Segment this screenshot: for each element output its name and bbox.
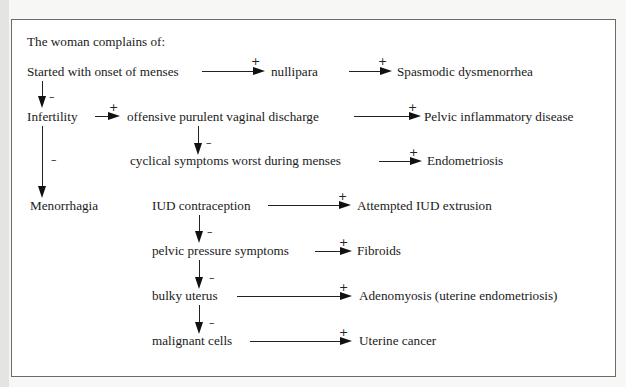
- minus-sign: –: [209, 272, 215, 283]
- node-pelvic-pressure: pelvic pressure symptoms: [152, 243, 289, 259]
- edge-line-onset-nullipara: [202, 71, 258, 72]
- plus-sign: +: [339, 327, 348, 338]
- node-iud-extrusion: Attempted IUD extrusion: [357, 198, 492, 214]
- node-fibroids: Fibroids: [357, 243, 401, 259]
- node-uterine-cancer: Uterine cancer: [359, 333, 436, 349]
- node-infertility: Infertility: [27, 109, 78, 125]
- diagram-title: The woman complains of:: [27, 34, 165, 50]
- plus-sign: +: [338, 191, 347, 202]
- arrow-down-icon: [195, 231, 203, 243]
- edge-line-discharge-pid: [354, 116, 414, 117]
- node-nullipara: nullipara: [271, 64, 318, 80]
- arrow-right-icon: [380, 67, 392, 75]
- node-adenomyosis: Adenomyosis (uterine endometriosis): [359, 288, 558, 304]
- plus-sign: +: [109, 102, 118, 113]
- node-bulky-uterus: bulky uterus: [152, 288, 218, 304]
- node-cyclical-symptoms: cyclical symptoms worst during menses: [130, 153, 341, 169]
- node-endometriosis: Endometriosis: [427, 153, 503, 169]
- plus-sign: +: [251, 56, 260, 67]
- arrow-down-icon: [38, 186, 46, 198]
- node-malignant-cells: malignant cells: [152, 333, 232, 349]
- arrow-down-icon: [38, 96, 46, 108]
- plus-sign: +: [378, 56, 387, 67]
- minus-sign: –: [206, 137, 212, 148]
- minus-sign: –: [51, 154, 57, 165]
- arrow-right-icon: [253, 67, 265, 75]
- edge-line-infertility-menorrhagia: [42, 126, 43, 190]
- edge-line-malignant-cancer: [250, 341, 345, 342]
- minus-sign: –: [49, 91, 55, 102]
- plus-sign: +: [409, 147, 418, 158]
- edge-line-bulky-adenomyosis: [237, 296, 345, 297]
- node-iud-contraception: IUD contraception: [152, 198, 251, 214]
- plus-sign: +: [339, 282, 348, 293]
- minus-sign: –: [209, 317, 215, 328]
- node-menorrhagia: Menorrhagia: [30, 198, 98, 214]
- edge-line-iud-extrusion: [268, 205, 344, 206]
- page-edge-shadow: [0, 0, 9, 387]
- plus-sign: +: [339, 237, 348, 248]
- plus-sign: +: [408, 102, 417, 113]
- node-onset: Started with onset of menses: [27, 64, 179, 80]
- minus-sign: –: [207, 226, 213, 237]
- node-pid: Pelvic inflammatory disease: [424, 109, 573, 125]
- node-discharge: offensive purulent vaginal discharge: [127, 109, 319, 125]
- node-spasmodic-dysmenorrhea: Spasmodic dysmenorrhea: [397, 64, 533, 80]
